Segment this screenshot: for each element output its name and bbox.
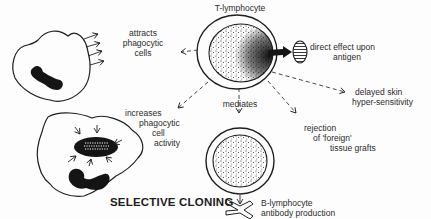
delayed-hypersensitivity-label: delayed skin hyper-sensitivity (355, 87, 413, 107)
t-lymphocyte-label: T-lymphocyte (207, 3, 273, 13)
immune-response-diagram: T-lymphocyte attracts phagocytic cells d… (0, 0, 431, 219)
attracted-phagocyte-cell (13, 31, 90, 101)
diagram-artwork (0, 0, 431, 219)
mediates-label: mediates (215, 99, 265, 109)
rejection-label: rejection of 'foreign' tissue grafts (304, 123, 376, 153)
attracts-label: attracts phagocytic cells (115, 28, 171, 58)
t-lymphocyte-cell (197, 15, 292, 89)
direct-effect-label: direct effect upon antigen (297, 42, 375, 62)
increases-label: increases phagocytic cell activity (125, 108, 180, 148)
b-lymphocyte-label: B-lymphocyte antibody production (261, 198, 335, 218)
b-lymphocyte-cell (206, 128, 274, 194)
diagram-title: SELECTIVE CLONING (110, 196, 234, 208)
